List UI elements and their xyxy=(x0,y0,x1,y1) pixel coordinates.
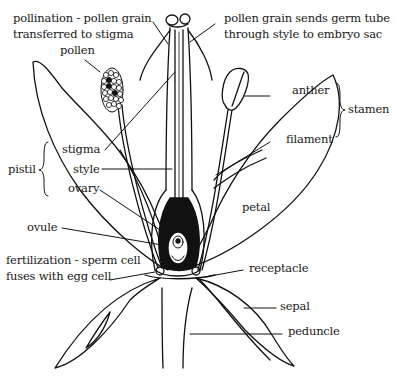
label-ovule: ovule xyxy=(27,221,57,234)
label-stigma: stigma xyxy=(62,143,100,156)
label-peduncle: peduncle xyxy=(288,325,340,338)
label-germ-tube-line2: through style to embryo sac xyxy=(224,28,382,41)
pistil-brace xyxy=(39,142,48,196)
label-germ-tube-line1: pollen grain sends germ tube xyxy=(224,12,390,25)
style-outer-left xyxy=(166,28,170,190)
peduncle-right xyxy=(183,288,192,368)
label-stamen: stamen xyxy=(348,103,389,116)
right-petal xyxy=(188,75,339,268)
label-fertilization-line2: fuses with egg cell xyxy=(6,270,111,283)
label-receptacle: receptacle xyxy=(249,262,308,275)
label-filament: filament xyxy=(286,133,333,146)
left-sepal xyxy=(55,278,160,368)
style-outer-right xyxy=(188,28,192,190)
right-filament xyxy=(198,110,228,270)
peduncle-left xyxy=(162,288,163,368)
stamen-brace xyxy=(336,83,345,137)
label-sepal: sepal xyxy=(280,300,310,313)
label-ovary: ovary xyxy=(68,182,99,195)
flower-diagram: pollination - pollen grain transferred t… xyxy=(0,0,397,376)
label-pollen: pollen xyxy=(60,44,95,57)
label-fertilization-line1: fertilization - sperm cell xyxy=(6,254,141,267)
anther xyxy=(222,68,248,110)
label-petal: petal xyxy=(242,201,270,214)
label-pistil: pistil xyxy=(8,163,36,176)
leader-lines xyxy=(62,22,282,334)
stigma-right-lobe xyxy=(180,14,190,24)
label-pollination-line1: pollination - pollen grain xyxy=(13,12,152,25)
label-anther: anther xyxy=(292,84,329,97)
pollen-cluster xyxy=(101,68,124,112)
label-style: style xyxy=(73,163,100,176)
label-pollination-line2: transferred to stigma xyxy=(13,28,134,41)
